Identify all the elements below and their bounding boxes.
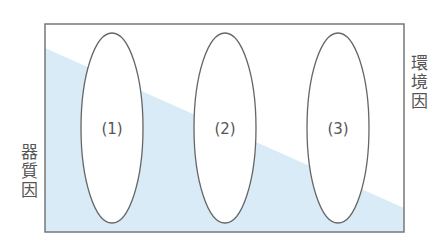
label-char: 境 [409,73,429,92]
organic-factor-label: 器 質 因 [19,143,39,200]
ellipse-label-1: (1) [101,120,122,138]
diagram-canvas: (1) (2) (3) [0,0,433,250]
label-char: 因 [19,181,39,200]
environmental-factor-label: 環 境 因 [409,54,429,111]
label-char: 因 [409,92,429,111]
label-char: 環 [409,54,429,73]
ellipse-1: (1) [81,33,143,223]
ellipse-label-2: (2) [214,120,235,138]
ellipse-3: (3) [307,33,369,223]
label-char: 器 [19,143,39,162]
ellipse-label-3: (3) [327,120,348,138]
label-char: 質 [19,162,39,181]
ellipse-2: (2) [194,33,256,223]
